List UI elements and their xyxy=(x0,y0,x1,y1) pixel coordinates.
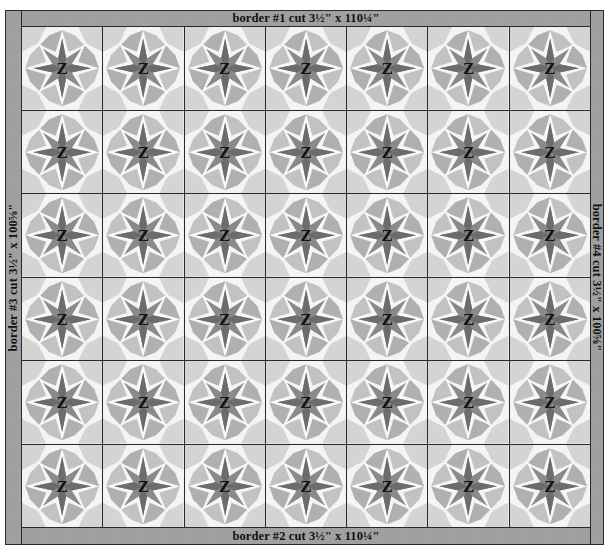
block-label: Z xyxy=(300,477,311,497)
block-label: Z xyxy=(219,226,230,246)
quilt-block: Z xyxy=(22,111,102,194)
block-label: Z xyxy=(138,59,149,79)
quilt-block: Z xyxy=(22,445,102,528)
block-label: Z xyxy=(56,143,67,163)
block-label: Z xyxy=(138,393,149,413)
block-label: Z xyxy=(56,393,67,413)
quilt-block: Z xyxy=(22,27,102,110)
block-label: Z xyxy=(138,226,149,246)
quilt-block: Z xyxy=(103,194,183,277)
quilt-block: Z xyxy=(266,445,346,528)
block-label: Z xyxy=(544,477,555,497)
quilt-block: Z xyxy=(428,194,508,277)
quilt-block: Z xyxy=(266,27,346,110)
block-label: Z xyxy=(463,226,474,246)
quilt-block: Z xyxy=(347,361,427,444)
block-label: Z xyxy=(300,310,311,330)
quilt-block: Z xyxy=(103,445,183,528)
block-label: Z xyxy=(138,310,149,330)
block-label: Z xyxy=(56,477,67,497)
quilt-block: Z xyxy=(185,194,265,277)
border-top: border #1 cut 3½" x 110¼" xyxy=(21,10,591,27)
quilt-block: Z xyxy=(428,361,508,444)
block-label: Z xyxy=(463,59,474,79)
quilt-diagram: border #1 cut 3½" x 110¼" border #3 cut … xyxy=(5,10,604,545)
quilt-block: Z xyxy=(22,361,102,444)
block-label: Z xyxy=(300,143,311,163)
quilt-block: Z xyxy=(510,194,590,277)
quilt-block: Z xyxy=(185,361,265,444)
quilt-block: Z xyxy=(103,361,183,444)
block-label: Z xyxy=(219,310,230,330)
block-label: Z xyxy=(463,310,474,330)
quilt-block: Z xyxy=(510,27,590,110)
block-label: Z xyxy=(544,143,555,163)
block-label: Z xyxy=(56,310,67,330)
quilt-block: Z xyxy=(103,278,183,361)
block-label: Z xyxy=(219,393,230,413)
block-label: Z xyxy=(463,143,474,163)
block-label: Z xyxy=(382,393,393,413)
block-label: Z xyxy=(544,59,555,79)
border-bottom: border #2 cut 3½" x 110¼" xyxy=(21,527,591,545)
quilt-block: Z xyxy=(185,278,265,361)
block-label: Z xyxy=(219,143,230,163)
block-label: Z xyxy=(219,477,230,497)
block-label: Z xyxy=(544,226,555,246)
quilt-block: Z xyxy=(266,278,346,361)
block-label: Z xyxy=(544,310,555,330)
block-label: Z xyxy=(544,393,555,413)
quilt-block: Z xyxy=(103,27,183,110)
quilt-block: Z xyxy=(266,111,346,194)
quilt-block: Z xyxy=(347,111,427,194)
quilt-block: Z xyxy=(510,445,590,528)
block-label: Z xyxy=(300,226,311,246)
block-label: Z xyxy=(463,477,474,497)
quilt-block: Z xyxy=(347,194,427,277)
block-label: Z xyxy=(382,59,393,79)
block-label: Z xyxy=(382,477,393,497)
block-label: Z xyxy=(138,143,149,163)
quilt-block: Z xyxy=(510,111,590,194)
quilt-block: Z xyxy=(347,445,427,528)
block-label: Z xyxy=(56,226,67,246)
block-label: Z xyxy=(300,393,311,413)
quilt-block: Z xyxy=(510,278,590,361)
block-label: Z xyxy=(382,226,393,246)
block-label: Z xyxy=(382,310,393,330)
block-grid: Z Z xyxy=(21,26,591,528)
quilt-block: Z xyxy=(185,27,265,110)
quilt-block: Z xyxy=(428,27,508,110)
block-label: Z xyxy=(56,59,67,79)
border-left: border #3 cut 3½" x 100⅝" xyxy=(5,10,22,545)
quilt-block: Z xyxy=(266,361,346,444)
quilt-block: Z xyxy=(510,361,590,444)
quilt-block: Z xyxy=(22,194,102,277)
quilt-block: Z xyxy=(428,278,508,361)
block-label: Z xyxy=(300,59,311,79)
quilt-block: Z xyxy=(428,111,508,194)
border-bottom-label: border #2 cut 3½" x 110¼" xyxy=(232,529,379,544)
border-right-label: border #4 cut 3½" x 100⅝" xyxy=(590,204,605,352)
quilt-block: Z xyxy=(22,278,102,361)
quilt-block: Z xyxy=(185,111,265,194)
block-label: Z xyxy=(382,143,393,163)
border-top-label: border #1 cut 3½" x 110¼" xyxy=(232,11,379,26)
block-label: Z xyxy=(138,477,149,497)
block-label: Z xyxy=(219,59,230,79)
border-right: border #4 cut 3½" x 100⅝" xyxy=(590,10,604,545)
border-left-label: border #3 cut 3½" x 100⅝" xyxy=(6,204,21,352)
quilt-block: Z xyxy=(266,194,346,277)
quilt-block: Z xyxy=(347,27,427,110)
quilt-block: Z xyxy=(185,445,265,528)
quilt-block: Z xyxy=(428,445,508,528)
quilt-block: Z xyxy=(103,111,183,194)
block-label: Z xyxy=(463,393,474,413)
quilt-block: Z xyxy=(347,278,427,361)
